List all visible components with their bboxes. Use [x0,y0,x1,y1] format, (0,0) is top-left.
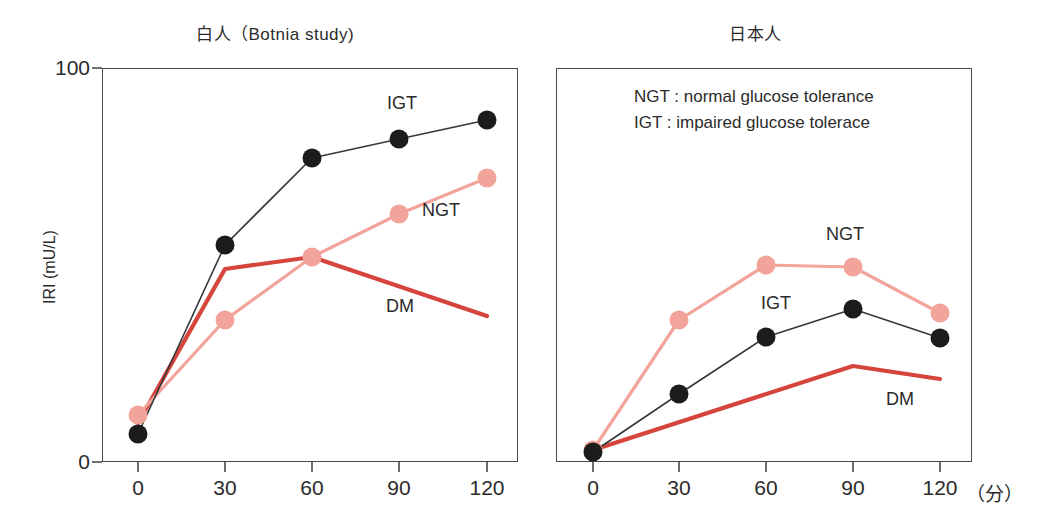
x-tick-0-japanese: 0 [568,476,618,500]
x-tick-90-japanese: 90 [828,476,878,500]
series-markers-ngt-japanese [584,256,950,460]
x-tick-60-japanese: 60 [741,476,791,500]
series-label-igt-japanese: IGT [761,293,791,314]
x-tick-120-japanese: 120 [915,476,965,500]
x-tick-30-japanese: 30 [654,476,704,500]
series-label-dm-japanese: DM [886,389,914,410]
plot-area-japanese [0,0,1043,531]
chart-figure: 白人（Botnia study) 100 0 IRI (mU/L) [0,0,1043,531]
x-axis-unit-label: （分） [966,479,1023,506]
series-label-ngt-japanese: NGT [826,224,864,245]
